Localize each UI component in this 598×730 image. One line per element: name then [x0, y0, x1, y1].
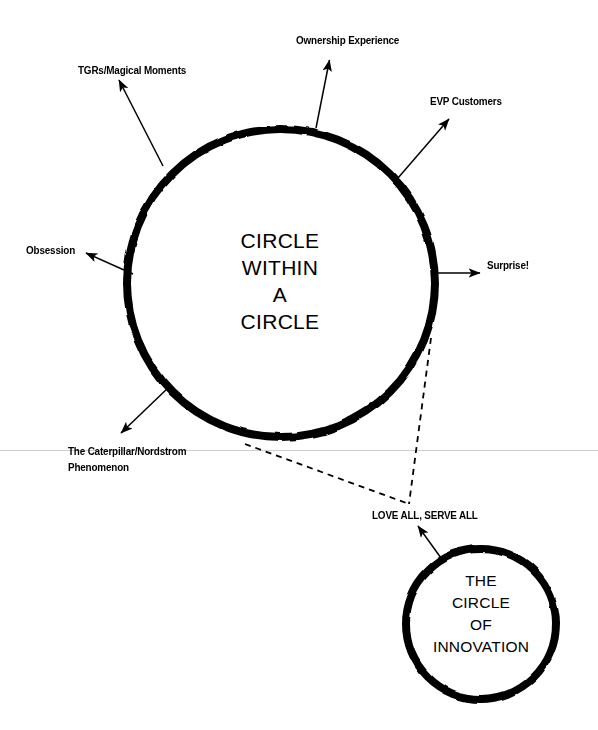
outer-circle-center-text: CIRCLE WITHIN A CIRCLE: [180, 228, 380, 336]
arrow-evp-customers: [398, 119, 449, 178]
inner-circle-center-text: THE CIRCLE OF INNOVATION: [422, 570, 540, 658]
dashed-connector-left: [245, 444, 409, 504]
diagram-canvas: TGRs/Magical Moments Ownership Experienc…: [0, 0, 598, 730]
label-tgrs-magical-moments: TGRs/Magical Moments: [78, 63, 186, 79]
label-love-all-serve-all: LOVE ALL, SERVE ALL: [372, 508, 478, 524]
arrow-ownership-experience: [316, 60, 330, 128]
label-ownership-experience: Ownership Experience: [296, 33, 399, 49]
label-caterpillar-nordstrom-phenomenon: The Caterpillar/Nordstrom Phenomenon: [68, 444, 186, 475]
label-evp-customers: EVP Customers: [430, 94, 502, 110]
arrow-love-all-serve-all: [418, 526, 441, 558]
label-surprise: Surprise!: [487, 258, 529, 274]
label-obsession: Obsession: [26, 243, 75, 259]
arrow-caterpillar-nordstrom: [121, 388, 168, 433]
arrow-tgrs-magical-moments: [119, 80, 163, 166]
